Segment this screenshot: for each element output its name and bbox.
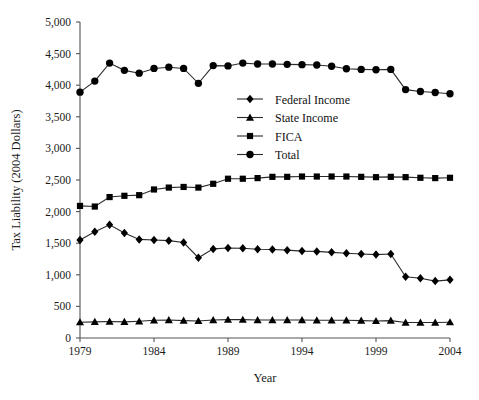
marker-square [343, 173, 349, 179]
y-tick-label: 1,500 [45, 237, 71, 250]
marker-square [447, 175, 453, 181]
marker-square [136, 192, 142, 198]
marker-square [417, 175, 423, 181]
marker-circle [106, 59, 113, 66]
marker-square [299, 173, 305, 179]
marker-square [247, 133, 253, 139]
marker-square [403, 174, 409, 180]
marker-square [432, 175, 438, 181]
marker-circle [343, 65, 350, 72]
marker-circle [180, 65, 187, 72]
marker-square [151, 186, 157, 192]
y-tick-label: 2,500 [45, 174, 71, 187]
x-tick-label: 2004 [439, 345, 462, 357]
legend-label: State Income [275, 111, 338, 125]
marker-circle [76, 88, 83, 95]
x-tick-label: 1984 [143, 345, 166, 357]
marker-circle [372, 66, 379, 73]
marker-circle [246, 151, 253, 158]
x-tick-label: 1989 [217, 345, 240, 357]
legend-label: Federal Income [275, 93, 350, 107]
y-tick-label: 1,000 [45, 269, 71, 282]
marker-circle [269, 60, 276, 67]
marker-circle [284, 61, 291, 68]
marker-circle [136, 70, 143, 77]
marker-circle [121, 67, 128, 74]
marker-circle [358, 66, 365, 73]
marker-circle [91, 77, 98, 84]
x-tick-label: 1999 [365, 345, 388, 357]
marker-circle [150, 65, 157, 72]
marker-square [166, 184, 172, 190]
marker-square [77, 203, 83, 209]
y-tick-label: 500 [54, 300, 72, 312]
marker-circle [298, 61, 305, 68]
marker-circle [239, 59, 246, 66]
x-tick-label: 1994 [291, 345, 314, 357]
y-tick-label: 0 [65, 332, 71, 344]
marker-circle [387, 66, 394, 73]
marker-circle [210, 62, 217, 69]
y-tick-label: 4,500 [45, 48, 71, 61]
marker-circle [254, 60, 261, 67]
chart-background [0, 0, 479, 400]
marker-circle [402, 86, 409, 93]
y-tick-label: 3,000 [45, 142, 71, 155]
marker-square [255, 175, 261, 181]
marker-circle [432, 89, 439, 96]
marker-circle [328, 63, 335, 70]
marker-square [269, 174, 275, 180]
marker-square [92, 203, 98, 209]
marker-square [181, 184, 187, 190]
marker-square [240, 176, 246, 182]
y-tick-label: 5,000 [45, 16, 71, 29]
marker-square [225, 176, 231, 182]
y-tick-label: 3,500 [45, 111, 71, 124]
marker-circle [165, 64, 172, 71]
marker-circle [313, 61, 320, 68]
marker-square [388, 174, 394, 180]
marker-square [210, 181, 216, 187]
marker-circle [417, 88, 424, 95]
legend-label: FICA [275, 130, 303, 144]
marker-square [314, 173, 320, 179]
y-axis-title: Tax Liability (2004 Dollars) [9, 109, 23, 250]
marker-circle [195, 80, 202, 87]
y-tick-label: 2,000 [45, 206, 71, 219]
marker-square [329, 173, 335, 179]
y-tick-label: 4,000 [45, 79, 71, 92]
marker-circle [224, 62, 231, 69]
marker-circle [446, 90, 453, 97]
marker-square [284, 174, 290, 180]
tax-liability-line-chart: 05001,0001,5002,0002,5003,0003,5004,0004… [0, 0, 479, 400]
x-tick-label: 1979 [69, 345, 92, 357]
marker-square [358, 174, 364, 180]
marker-square [195, 184, 201, 190]
legend-label: Total [275, 148, 300, 162]
marker-square [107, 194, 113, 200]
x-axis-title: Year [253, 371, 277, 385]
chart-figure: 05001,0001,5002,0002,5003,0003,5004,0004… [0, 0, 479, 400]
marker-square [373, 174, 379, 180]
marker-square [121, 193, 127, 199]
